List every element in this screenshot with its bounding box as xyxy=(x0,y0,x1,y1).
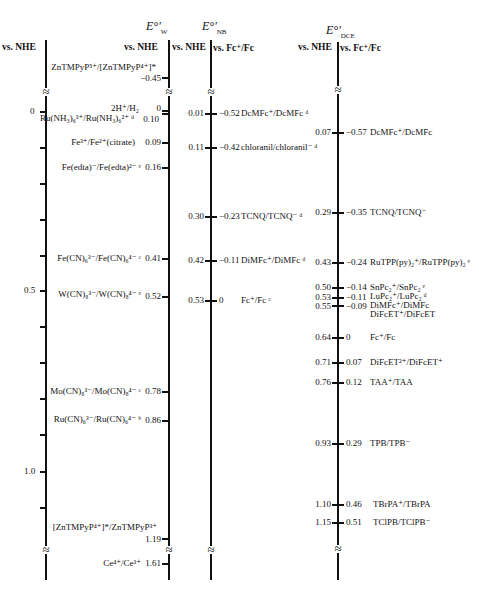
water-tick xyxy=(162,113,168,115)
dce-couple: DiFcET⁺/DiFcET xyxy=(370,309,435,319)
axis-break-icon: ≈ xyxy=(331,86,345,94)
dce-nhe-value: 0.71 xyxy=(315,357,331,367)
water-couple: Ce⁴⁺/Ce³⁺ xyxy=(103,558,141,568)
nb-fc-value: −0.52 xyxy=(219,108,240,118)
axis-tick xyxy=(40,507,46,509)
edce-title-sub: DCE xyxy=(341,32,355,40)
dce-couple: DcMFc⁺/DcMFc xyxy=(370,127,432,137)
water-value: 0.09 xyxy=(145,137,161,147)
dce-couple: RuTPP(py)₂⁺/RuTPP(py)₂ ᵉ xyxy=(370,257,470,267)
nb-fc-value: 0 xyxy=(219,295,224,305)
water-value: 0.78 xyxy=(145,386,161,396)
axis-water xyxy=(168,40,170,580)
water-couple: ZnTMPyP⁵⁺/[ZnTMPyP⁴⁺]* xyxy=(51,62,156,72)
water-couple: 2H⁺/H₂ xyxy=(111,103,139,113)
dce-nhe-value: 0.43 xyxy=(315,257,331,267)
nb-tick xyxy=(205,147,217,149)
water-tick xyxy=(162,420,168,422)
dce-tick xyxy=(332,382,344,384)
water-tick xyxy=(162,77,168,79)
enb-title-sub: NB xyxy=(217,28,227,36)
enb-header-fc: vs. Fc⁺/Fc xyxy=(213,42,254,53)
axis-dce xyxy=(337,42,339,580)
axis-label: 1.0 xyxy=(24,466,35,476)
axis-tick xyxy=(40,362,46,364)
water-tick xyxy=(162,258,168,260)
water-couple: Ru(NH₃)₆³⁺/Ru(NH₃)₆²⁺ ᵈ xyxy=(40,113,134,123)
axis-break-icon: ≈ xyxy=(39,88,53,96)
ew-title-sub: W xyxy=(161,28,168,36)
dce-tick xyxy=(332,337,344,339)
axis-tick xyxy=(40,398,46,400)
nb-couple: DiMFc⁺/DiMFc ᵈ xyxy=(241,255,305,265)
axis-tick xyxy=(40,183,46,185)
water-couple: [ZnTMPyP⁴⁺]*/ZnTMPyP³⁺ xyxy=(53,522,157,532)
nb-tick xyxy=(205,300,217,302)
axis-tick xyxy=(40,326,46,328)
dce-couple: TClPB/TClPB⁻ xyxy=(373,517,430,527)
water-couple: Mo(CN)₈³⁻/Mo(CN)₈⁴⁻ ᶜ xyxy=(50,386,141,396)
axis-break-icon: ≈ xyxy=(204,88,218,96)
dce-nhe-value: 0.50 xyxy=(315,282,331,292)
water-tick xyxy=(162,110,168,112)
nb-couple: Fc⁺/Fc ᶜ xyxy=(241,295,271,305)
dce-fc-value: −0.14 xyxy=(346,282,367,292)
water-couple: Fe(CN)₆³⁻/Fe(CN)₆⁴⁻ ᶜ xyxy=(57,253,141,263)
dce-couple: TPB/TPB⁻ xyxy=(370,438,410,448)
dce-nhe-value: 0.76 xyxy=(315,377,331,387)
dce-fc-value: 0.51 xyxy=(346,517,362,527)
water-tick xyxy=(162,167,168,169)
water-value: 0.86 xyxy=(145,415,161,425)
dce-nhe-value: 1.10 xyxy=(315,499,331,509)
dce-tick xyxy=(332,212,344,214)
dce-tick xyxy=(332,522,344,524)
axis-break-icon: ≈ xyxy=(204,546,218,554)
edce-header-nhe: vs. NHE xyxy=(298,42,332,52)
dce-fc-value: −0.24 xyxy=(346,257,367,267)
enb-title: E°′NB xyxy=(202,16,227,34)
axis-break-icon: ≈ xyxy=(162,88,176,96)
dce-fc-value: 0 xyxy=(346,332,351,342)
nb-nhe-value: 0.42 xyxy=(188,255,204,265)
water-value: 1.19 xyxy=(145,534,161,544)
axis1-header: vs. NHE xyxy=(2,42,36,52)
nb-couple: TCNQ/TCNQ⁻ ᵈ xyxy=(241,211,302,221)
water-tick xyxy=(162,296,168,298)
axis-tick xyxy=(40,147,46,149)
dce-fc-value: 0.29 xyxy=(346,438,362,448)
ew-header: vs. NHE xyxy=(124,42,158,52)
dce-tick xyxy=(332,504,344,506)
nb-nhe-value: 0.11 xyxy=(189,142,204,152)
water-value: 0.52 xyxy=(145,291,161,301)
water-tick xyxy=(162,391,168,393)
dce-fc-value: 0.12 xyxy=(346,377,362,387)
axis-tick xyxy=(40,255,46,257)
edce-title: E°′DCE xyxy=(326,20,355,38)
axis-break-icon: ≈ xyxy=(331,545,345,553)
axis-nb xyxy=(210,40,212,580)
axis-break-icon: ≈ xyxy=(162,546,176,554)
axis-break-icon: ≈ xyxy=(39,546,53,554)
dce-tick xyxy=(332,262,344,264)
ew-title-symbol: E°′ xyxy=(146,19,161,33)
dce-couple: TCNQ/TCNQ⁻ xyxy=(370,207,426,217)
axis-tick xyxy=(40,219,46,221)
dce-tick xyxy=(332,287,344,289)
dce-nhe-value: 0.93 xyxy=(315,438,331,448)
water-couple: Fe³⁺/Fe²⁺(citrate) xyxy=(71,137,135,147)
water-value: 0.16 xyxy=(145,162,161,172)
enb-title-symbol: E°′ xyxy=(202,19,217,33)
water-tick xyxy=(162,563,168,565)
dce-fc-value: 0.07 xyxy=(346,357,362,367)
axis-label: 0 xyxy=(30,106,35,116)
dce-fc-value: −0.35 xyxy=(346,207,367,217)
dce-couple: TAA⁺/TAA xyxy=(370,377,413,387)
nb-tick xyxy=(205,216,217,218)
nb-couple: DcMFc⁺/DcMFc ᵈ xyxy=(241,108,308,118)
dce-tick xyxy=(332,305,344,307)
dce-couple: DiFcET²⁺/DiFcET⁺ xyxy=(370,357,443,367)
water-value: 0.10 xyxy=(143,114,159,124)
water-couple: Fe(edta)⁻/Fe(edta)²⁻ ᵉ xyxy=(62,162,141,172)
nb-couple: chloranil/chloranil⁻ ᵈ xyxy=(241,142,317,152)
enb-header-nhe: vs. NHE xyxy=(172,42,206,52)
